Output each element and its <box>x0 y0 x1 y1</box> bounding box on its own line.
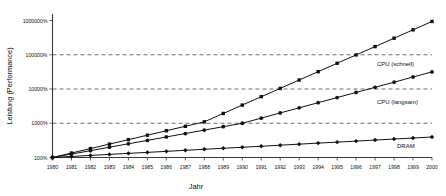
x-tick-label: 1987 <box>180 164 192 170</box>
data-point <box>165 129 168 132</box>
data-point <box>183 132 187 136</box>
x-tick-label: 1991 <box>255 164 267 170</box>
series-line <box>53 21 433 157</box>
data-point <box>278 111 282 115</box>
data-point <box>430 70 434 74</box>
data-point <box>373 45 376 48</box>
series-label: DRAM <box>397 143 415 149</box>
x-axis-ticks: 1980198119821983198419851986198719881989… <box>47 158 438 170</box>
y-tick-label: 10000% <box>28 86 47 92</box>
data-point <box>354 139 358 143</box>
x-tick-label: 1989 <box>218 164 230 170</box>
data-point <box>430 20 433 23</box>
data-point <box>240 121 244 125</box>
data-point <box>240 145 244 149</box>
y-tick-label: 1000% <box>31 120 48 126</box>
data-point <box>221 146 225 150</box>
x-tick-label: 1981 <box>66 164 78 170</box>
data-point <box>316 141 320 145</box>
x-tick-label: 1995 <box>331 164 343 170</box>
data-point <box>202 128 206 132</box>
data-point <box>107 152 111 156</box>
data-point <box>316 101 320 105</box>
data-point <box>108 145 112 149</box>
x-tick-label: 1994 <box>312 164 324 170</box>
x-tick-label: 1988 <box>199 164 211 170</box>
data-point <box>222 112 225 115</box>
data-point <box>145 150 149 154</box>
x-axis-title: Jahr <box>189 182 204 191</box>
data-point <box>164 135 168 139</box>
y-tick-label: 100000% <box>26 52 48 58</box>
y-tick-label: 100% <box>34 155 48 161</box>
x-tick-label: 1986 <box>161 164 173 170</box>
x-tick-label: 1999 <box>407 164 419 170</box>
data-point <box>411 28 414 31</box>
data-point <box>145 138 149 142</box>
data-point <box>392 37 395 40</box>
data-point <box>411 136 415 140</box>
data-point <box>164 149 168 153</box>
data-point <box>373 138 377 142</box>
data-point <box>354 53 357 56</box>
x-tick-label: 1985 <box>142 164 154 170</box>
x-tick-label: 1980 <box>47 164 59 170</box>
x-tick-label: 1993 <box>293 164 305 170</box>
data-point <box>241 103 244 106</box>
data-point <box>183 148 187 152</box>
y-tick-label: 1000000% <box>23 18 48 24</box>
chart-canvas: 1000000%100000%10000%1000%100% 198019811… <box>0 0 446 196</box>
data-point <box>259 116 263 120</box>
data-point <box>279 87 282 90</box>
x-tick-label: 1998 <box>388 164 400 170</box>
data-point <box>411 75 415 79</box>
data-point <box>354 91 358 95</box>
data-point <box>297 106 301 110</box>
data-point <box>89 149 93 153</box>
data-point <box>297 142 301 146</box>
data-point <box>221 125 225 129</box>
data-point <box>373 85 377 89</box>
performance-chart: 1000000%100000%10000%1000%100% 198019811… <box>0 0 446 196</box>
data-point <box>146 133 149 136</box>
y-axis-title: Leistung (Performance) <box>5 47 14 124</box>
data-point <box>203 120 206 123</box>
data-point <box>127 138 130 141</box>
data-point <box>316 70 319 73</box>
data-point <box>297 78 300 81</box>
data-point <box>260 95 263 98</box>
data-point <box>259 144 263 148</box>
data-point <box>126 151 130 155</box>
data-point <box>430 135 434 139</box>
data-point <box>392 80 396 84</box>
data-series <box>50 20 434 160</box>
y-axis-ticks: 1000000%100000%10000%1000%100% <box>23 18 53 161</box>
data-point <box>335 140 339 144</box>
data-point <box>392 137 396 141</box>
series-label: CPU (langsam) <box>377 99 418 105</box>
x-tick-label: 1996 <box>350 164 362 170</box>
x-tick-label: 2000 <box>426 164 438 170</box>
x-tick-label: 1990 <box>236 164 248 170</box>
data-point <box>126 142 130 146</box>
x-tick-label: 1983 <box>104 164 116 170</box>
x-tick-label: 1992 <box>274 164 286 170</box>
data-point <box>335 96 339 100</box>
data-point <box>335 62 338 65</box>
data-point <box>202 147 206 151</box>
data-point <box>278 143 282 147</box>
series-labels: CPU (schnell)CPU (langsam)DRAM <box>377 61 418 149</box>
data-point <box>184 125 187 128</box>
series-label: CPU (schnell) <box>377 61 414 67</box>
x-tick-label: 1984 <box>123 164 135 170</box>
x-tick-label: 1997 <box>369 164 381 170</box>
x-tick-label: 1982 <box>85 164 97 170</box>
